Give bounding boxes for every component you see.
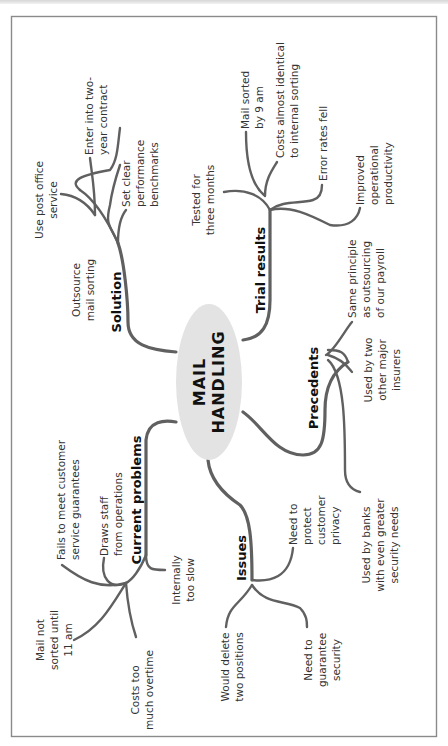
svg-text:Need to: Need to	[287, 504, 299, 545]
svg-text:to internal sorting: to internal sorting	[288, 64, 300, 158]
svg-text:Used by two: Used by two	[362, 338, 374, 403]
topic-solution: Solution	[109, 272, 124, 333]
svg-text:much overtime: much overtime	[143, 650, 155, 730]
leaf-used-by-banks: Used by banks with even greater security…	[360, 498, 400, 592]
svg-text:privacy: privacy	[329, 506, 341, 545]
center-title-line2: HANDLING	[209, 330, 228, 433]
svg-text:too slow: too slow	[184, 558, 196, 602]
svg-text:Would delete: Would delete	[219, 633, 231, 702]
svg-text:service: service	[47, 181, 59, 219]
svg-text:year contract: year contract	[97, 85, 109, 155]
svg-text:Costs too: Costs too	[129, 665, 141, 714]
svg-text:guarantee: guarantee	[316, 633, 328, 687]
mind-map-canvas: MAIL HANDLING Solution Trial results Pre…	[0, 0, 448, 746]
svg-text:Outsource: Outsource	[70, 263, 82, 317]
svg-text:performance: performance	[134, 140, 146, 207]
svg-text:productivity: productivity	[382, 142, 394, 205]
svg-text:as outsourcing: as outsourcing	[360, 241, 372, 318]
svg-text:security needs: security needs	[388, 507, 400, 584]
svg-text:of our payroll: of our payroll	[374, 248, 386, 318]
svg-text:Internally: Internally	[170, 555, 182, 605]
svg-text:Improved: Improved	[354, 155, 366, 205]
svg-text:Error rates fell: Error rates fell	[317, 106, 329, 181]
svg-text:protect: protect	[301, 507, 313, 545]
svg-text:sorted until: sorted until	[48, 610, 60, 670]
svg-text:Use post office: Use post office	[33, 161, 45, 239]
topic-issues: Issues	[234, 535, 249, 581]
svg-text:Used by banks: Used by banks	[360, 506, 372, 583]
svg-text:Need to: Need to	[302, 639, 314, 680]
svg-text:customer: customer	[315, 495, 327, 545]
svg-text:Tested for: Tested for	[190, 174, 202, 227]
svg-text:with even greater: with even greater	[374, 498, 386, 592]
center-node: MAIL HANDLING	[176, 304, 242, 460]
svg-text:Draws staff: Draws staff	[98, 496, 110, 556]
svg-text:three months: three months	[204, 165, 216, 236]
svg-text:Mail not: Mail not	[34, 619, 46, 661]
svg-text:Same principle: Same principle	[346, 240, 358, 318]
center-title-line1: MAIL	[190, 358, 209, 406]
svg-text:mail sorting: mail sorting	[84, 259, 96, 321]
svg-text:other major: other major	[376, 339, 388, 401]
svg-text:by 9 am: by 9 am	[253, 86, 265, 129]
svg-text:benchmarks: benchmarks	[148, 142, 160, 207]
svg-text:11 am: 11 am	[62, 623, 74, 656]
topic-precedents: Precedents	[306, 346, 321, 429]
svg-text:Fails to meet customer: Fails to meet customer	[55, 439, 67, 560]
svg-text:Mail sorted: Mail sorted	[239, 71, 251, 129]
svg-text:Costs almost identical: Costs almost identical	[274, 42, 286, 158]
svg-text:insurers: insurers	[390, 349, 402, 391]
svg-text:Enter into two-: Enter into two-	[83, 77, 95, 155]
leaf-error-rates-fell: Error rates fell	[317, 106, 329, 181]
leaf-guarantee-security: Need to guarantee security	[302, 633, 342, 687]
svg-text:security: security	[330, 639, 342, 681]
topic-current-problems: Current problems	[129, 435, 144, 564]
svg-text:operational: operational	[368, 145, 380, 205]
topic-trial-results: Trial results	[253, 226, 268, 313]
svg-text:Set clear: Set clear	[120, 160, 132, 207]
svg-text:from operations: from operations	[112, 472, 124, 556]
svg-text:service guarantees: service guarantees	[69, 459, 81, 560]
leaf-same-principle-payroll: Same principle as outsourcing of our pay…	[346, 240, 386, 318]
svg-text:two positions: two positions	[233, 632, 245, 702]
